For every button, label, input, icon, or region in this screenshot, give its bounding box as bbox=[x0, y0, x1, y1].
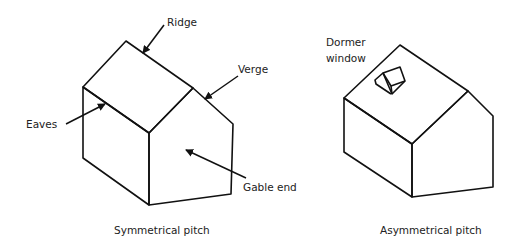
gable-end-wall bbox=[149, 88, 233, 205]
eaves-arrow bbox=[66, 104, 105, 124]
side-wall bbox=[344, 98, 412, 197]
ridge-label: Ridge bbox=[167, 16, 197, 29]
symmetrical-pitch-caption: Symmetrical pitch bbox=[114, 224, 210, 237]
dormer-label-line2: window bbox=[326, 52, 366, 65]
dormer-label-line1: Dormer bbox=[326, 36, 366, 49]
roof-pitch-diagram: Ridge Verge Eaves Gable end Symmetrical … bbox=[0, 0, 517, 251]
annotation-arrows-left bbox=[66, 25, 246, 178]
asymmetrical-house bbox=[344, 45, 493, 197]
symmetrical-house bbox=[83, 41, 233, 205]
roof-slope bbox=[83, 41, 193, 133]
eaves-label: Eaves bbox=[26, 118, 57, 131]
side-wall bbox=[83, 87, 149, 205]
gable-end-arrow bbox=[186, 150, 246, 178]
asymmetrical-pitch-caption: Asymmetrical pitch bbox=[380, 224, 482, 237]
gable-end-wall bbox=[412, 91, 493, 197]
ridge-arrow bbox=[143, 25, 164, 53]
diagram-drawing bbox=[0, 0, 517, 251]
dormer-window bbox=[375, 67, 405, 94]
verge-label: Verge bbox=[238, 63, 268, 76]
gable-end-label: Gable end bbox=[243, 181, 297, 194]
verge-arrow bbox=[205, 76, 238, 99]
